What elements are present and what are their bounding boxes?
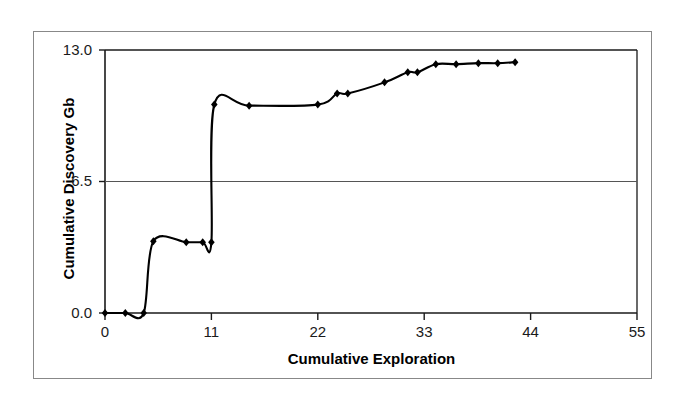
x-tick-label-44: 44 [511,323,551,340]
data-point-marker [345,90,352,98]
x-tick-label-55: 55 [617,323,657,340]
data-point-marker [211,101,218,109]
y-tick-label-0: 0.0 [32,304,92,321]
data-point-marker [183,238,190,246]
data-point-marker [512,58,519,66]
x-tick-label-11: 11 [191,323,231,340]
x-tick-marks [105,313,637,320]
y-tick-label-13: 13.0 [32,41,92,58]
data-point-marker [475,59,482,67]
data-point-marker [381,78,388,86]
x-axis-title: Cumulative Exploration [105,350,638,367]
x-tick-label-22: 22 [298,323,338,340]
data-point-marker [315,101,322,109]
data-point-marker [494,59,501,67]
data-point-marker [122,309,129,317]
chart-figure: Cumulative Discovery Gb Cumulative Explo… [0,0,685,393]
y-tick-marks [99,50,105,313]
x-tick-label-33: 33 [404,323,444,340]
series-markers [102,58,519,317]
data-point-marker [208,238,215,246]
data-point-marker [414,68,421,76]
x-tick-label-0: 0 [85,323,125,340]
data-point-marker [453,60,460,68]
data-point-marker [102,309,109,317]
data-point-marker [433,60,440,68]
data-point-marker [246,102,253,110]
series-line [105,62,515,318]
y-tick-label-6-5: 6.5 [32,172,92,189]
data-point-marker [404,68,411,76]
